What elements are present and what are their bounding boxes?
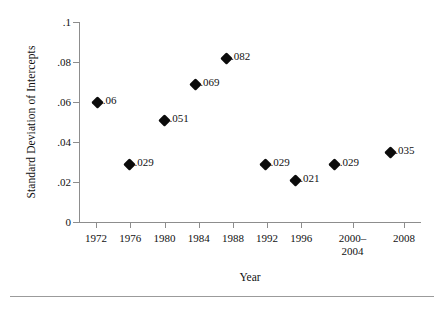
y-axis-title: Standard Deviation of Intercepts — [25, 17, 37, 227]
data-point-label: .021 — [300, 172, 319, 184]
y-tick-label: 0 — [37, 216, 71, 228]
data-point-label: .051 — [170, 112, 189, 124]
data-point-label: .082 — [231, 50, 250, 62]
data-point-label: .029 — [270, 156, 289, 168]
y-tick-mark — [73, 62, 79, 63]
y-tick-mark — [73, 182, 79, 183]
y-tick-mark — [73, 22, 79, 23]
y-tick-label: .1 — [37, 16, 71, 28]
y-tick-label: .04 — [37, 136, 71, 148]
x-tick-mark-8 — [404, 222, 405, 228]
x-tick-mark-0 — [96, 222, 97, 228]
y-axis-line — [79, 22, 80, 223]
x-axis-title: Year — [79, 271, 421, 283]
x-tick-mark-6 — [301, 222, 302, 228]
x-tick-label-line2: 2004 — [318, 245, 388, 258]
scatter-chart-figure: Standard Deviation of Intercepts 0.02.04… — [0, 0, 444, 313]
data-point-label: .06 — [103, 94, 117, 106]
x-tick-mark-3 — [199, 222, 200, 228]
y-tick-mark — [73, 222, 79, 223]
data-point-label: .069 — [200, 76, 219, 88]
x-tick-mark-5 — [267, 222, 268, 228]
y-tick-label: .06 — [37, 96, 71, 108]
x-tick-mark-7 — [353, 222, 354, 228]
x-tick-mark-1 — [130, 222, 131, 228]
y-tick-mark — [73, 102, 79, 103]
data-point-label: .029 — [340, 156, 359, 168]
footer-divider — [10, 296, 434, 297]
y-tick-label: .08 — [37, 56, 71, 68]
x-tick-label-line1: 2008 — [369, 232, 439, 245]
x-tick-mark-4 — [233, 222, 234, 228]
x-tick-mark-2 — [165, 222, 166, 228]
y-tick-label: .02 — [37, 176, 71, 188]
x-tick-label-8: 2008 — [369, 232, 439, 245]
data-point-label: .035 — [395, 144, 414, 156]
data-point-label: .029 — [134, 156, 153, 168]
y-tick-mark — [73, 142, 79, 143]
